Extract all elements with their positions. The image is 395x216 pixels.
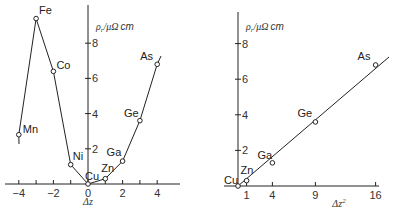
y-tick-label: 2 [242, 144, 248, 156]
data-point-as [155, 62, 160, 67]
point-label-ga: Ga [107, 146, 123, 158]
point-label-ge: Ge [124, 107, 139, 119]
point-label-ni: Ni [73, 150, 83, 162]
data-point-co [51, 69, 56, 74]
point-label-zn: Zn [101, 162, 114, 174]
data-point-cu [86, 182, 91, 187]
x-axis-label: Δz2 [331, 197, 346, 209]
data-point-ga [270, 161, 275, 166]
point-label-zn: Zn [241, 164, 254, 176]
data-point-zn [244, 178, 249, 183]
chart-resistivity-vs-dz: −4−20242468Δzρr/μΩcmMnFeCoNiCuZnGaGeAs [5, 4, 180, 207]
data-point-ga [120, 159, 125, 164]
point-label-co: Co [56, 59, 70, 71]
y-axis-label: ρr/μΩcm [95, 21, 134, 34]
data-point-as [373, 63, 378, 68]
point-label-cu: Cu [224, 174, 238, 186]
y-tick-label: 6 [242, 73, 248, 85]
x-tick-label: 4 [154, 187, 160, 199]
data-point-ni [68, 162, 73, 167]
y-tick-label: 4 [242, 109, 248, 121]
data-point-fe [34, 16, 39, 21]
y-tick-label: 4 [92, 108, 98, 120]
y-tick-label: 8 [92, 37, 98, 49]
data-point-ge [313, 120, 318, 125]
x-tick-label: −4 [13, 187, 26, 199]
data-point-zn [103, 176, 108, 181]
point-label-ga: Ga [257, 149, 273, 161]
point-label-as: As [140, 50, 153, 62]
point-label-as: As [358, 50, 371, 62]
y-axis-label: ρr/μΩcm [245, 21, 284, 34]
y-tick-label: 2 [92, 143, 98, 155]
point-label-ge: Ge [297, 107, 312, 119]
y-tick-label: 6 [92, 72, 98, 84]
chart-canvas: −4−20242468Δzρr/μΩcmMnFeCoNiCuZnGaGeAs14… [0, 0, 395, 216]
x-tick-label: 16 [369, 189, 381, 201]
data-point-ge [138, 118, 143, 123]
y-tick-label: 8 [242, 38, 248, 50]
x-axis-label: Δz [82, 196, 93, 207]
x-tick-label: 9 [312, 189, 318, 201]
x-tick-label: 1 [244, 189, 250, 201]
x-tick-label: 4 [269, 189, 275, 201]
x-tick-label: 2 [120, 187, 126, 199]
point-label-mn: Mn [23, 123, 38, 135]
point-label-fe: Fe [39, 4, 52, 16]
x-tick-label: −2 [47, 187, 60, 199]
point-label-cu: Cu [85, 170, 99, 182]
data-point-mn [17, 132, 22, 137]
chart-resistivity-vs-dz2: 149162468Δz2ρr/μΩcmCuZnGaGeAs [224, 12, 389, 209]
